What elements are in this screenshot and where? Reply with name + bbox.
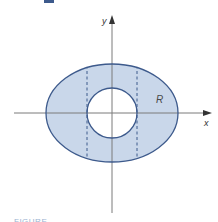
figure-caption: FIGURE	[14, 217, 47, 222]
region-figure: y x R FIGURE	[0, 0, 218, 222]
region-label: R	[156, 94, 163, 105]
y-axis-label: y	[101, 16, 107, 26]
page-corner-mark	[44, 0, 54, 3]
x-axis-label: x	[203, 118, 209, 128]
region-diagram: y x R	[0, 0, 218, 222]
y-axis-arrow-icon	[109, 15, 115, 24]
x-axis-arrow-icon	[203, 110, 212, 116]
